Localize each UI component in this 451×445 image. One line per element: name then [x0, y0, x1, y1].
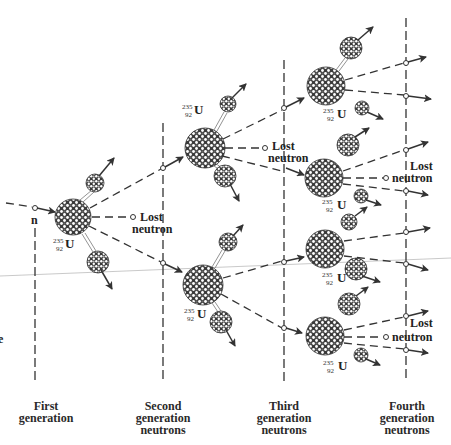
- svg-text:U: U: [194, 102, 204, 117]
- svg-text:92: 92: [326, 279, 334, 287]
- nucleus-gen1: 235 92 U Lost neutron: [53, 158, 173, 289]
- cropped-text: e: [0, 332, 4, 346]
- svg-text:U: U: [337, 197, 347, 212]
- svg-text:neutrons: neutrons: [140, 423, 185, 437]
- svg-text:U: U: [338, 358, 348, 373]
- svg-text:235: 235: [53, 237, 64, 245]
- svg-text:235: 235: [323, 359, 334, 367]
- nucleus-gen2-upper: 235 92 U Lost neutron: [161, 84, 309, 201]
- svg-text:Lost: Lost: [410, 316, 433, 330]
- svg-text:235: 235: [323, 107, 334, 115]
- svg-text:U: U: [65, 236, 75, 251]
- svg-text:neutron: neutron: [392, 330, 433, 344]
- svg-text:U: U: [337, 270, 347, 285]
- svg-text:92: 92: [185, 111, 193, 119]
- svg-text:235: 235: [322, 198, 333, 206]
- svg-text:U: U: [337, 106, 347, 121]
- nucleus-gen3-b: 235 92 U Lost neutron: [286, 128, 433, 214]
- nucleus-gen3-c: 235 92 U: [282, 207, 431, 287]
- nucleus-gen2-lower: 235 92 U: [161, 225, 283, 346]
- generation-labels: First generation Second generation neutr…: [19, 399, 435, 437]
- svg-text:generation: generation: [19, 411, 74, 425]
- neutron-label: n: [31, 213, 38, 227]
- fission-chain-diagram: n 235 92 U Lost neutron 235 92 U L: [0, 0, 451, 445]
- first-generation-label: First generation: [19, 399, 74, 425]
- svg-text:92: 92: [56, 245, 64, 253]
- nucleus-gen3-a: 235 92 U: [282, 27, 432, 123]
- svg-text:92: 92: [187, 315, 195, 323]
- svg-text:92: 92: [327, 115, 335, 123]
- svg-text:neutrons: neutrons: [384, 423, 429, 437]
- incoming-neutron: n: [6, 203, 55, 227]
- svg-text:235: 235: [322, 271, 333, 279]
- fourth-generation-label: Fourth generation neutrons: [380, 399, 435, 437]
- svg-text:U: U: [197, 306, 207, 321]
- second-generation-label: Second generation neutrons: [136, 399, 191, 437]
- svg-text:neutron: neutron: [132, 222, 173, 236]
- svg-text:92: 92: [327, 367, 335, 375]
- svg-text:235: 235: [182, 103, 193, 111]
- svg-text:neutrons: neutrons: [261, 423, 306, 437]
- svg-text:neutron: neutron: [392, 171, 433, 185]
- svg-text:92: 92: [326, 206, 334, 214]
- nucleus-gen3-d: 235 92 U Lost neutron: [282, 287, 433, 375]
- svg-text:235: 235: [184, 307, 195, 315]
- svg-text:neutron: neutron: [268, 151, 309, 165]
- third-generation-label: Third generation neutrons: [257, 399, 312, 437]
